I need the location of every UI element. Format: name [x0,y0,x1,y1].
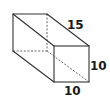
front-face [54,46,89,82]
width-label: 10 [64,84,81,98]
depth-bottom-left-edge [13,51,54,82]
length-label: 15 [67,18,84,32]
height-label: 10 [90,59,107,73]
hidden-depth-bottom-right-edge [47,51,89,82]
rectangular-prism-diagram: 15 10 10 [0,0,110,99]
depth-top-left-edge [13,14,54,46]
